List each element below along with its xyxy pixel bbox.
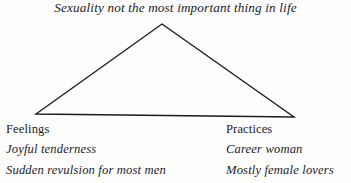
column-practices-item-1: Career woman <box>226 139 334 160</box>
column-practices: Practices Career woman Mostly female lov… <box>226 119 334 181</box>
diagram-canvas: Sexuality not the most important thing i… <box>0 0 351 183</box>
column-feelings-heading: Feelings <box>6 119 166 139</box>
column-practices-item-2: Mostly female lovers <box>226 160 334 181</box>
column-feelings-item-1: Joyful tenderness <box>6 139 166 160</box>
column-feelings: Feelings Joyful tenderness Sudden revuls… <box>6 119 166 181</box>
column-feelings-item-2: Sudden revulsion for most men <box>6 160 166 181</box>
column-practices-heading: Practices <box>226 119 334 139</box>
triangle-outline <box>36 24 294 117</box>
